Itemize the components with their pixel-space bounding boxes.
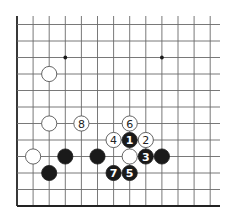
black-stone: [90, 149, 105, 164]
black-stone-move-7: 7: [106, 165, 121, 180]
move-number-label: 4: [110, 134, 117, 147]
white-stone: [42, 116, 57, 131]
black-stone: [42, 165, 57, 180]
white-stone-icon: [122, 149, 137, 164]
black-stone-icon: [90, 149, 105, 164]
black-stone-icon: [58, 149, 73, 164]
black-stone-icon: [154, 149, 169, 164]
white-stone-move-4: 4: [106, 132, 121, 147]
white-stone-move-8: 8: [74, 116, 89, 131]
black-stone-move-5: 5: [122, 165, 137, 180]
star-point-icon: [63, 56, 67, 60]
white-stone: [25, 149, 40, 164]
move-number-label: 7: [110, 167, 118, 180]
white-stone-icon: [42, 66, 57, 81]
move-number-label: 5: [126, 167, 134, 180]
move-number-label: 6: [126, 118, 133, 131]
white-stone-move-2: 2: [138, 132, 153, 147]
star-point-icon: [160, 56, 164, 60]
white-stone-icon: [42, 116, 57, 131]
black-stone-move-1: 1: [122, 132, 137, 147]
move-number-label: 8: [78, 118, 85, 131]
white-stone-move-6: 6: [122, 116, 137, 131]
black-stone-icon: [42, 165, 57, 180]
black-stone: [154, 149, 169, 164]
black-stone: [58, 149, 73, 164]
black-stone-move-3: 3: [138, 149, 153, 164]
go-board: 86412375: [0, 0, 236, 217]
move-number-label: 3: [142, 151, 150, 164]
white-stone: [122, 149, 137, 164]
white-stone-icon: [25, 149, 40, 164]
move-number-label: 1: [126, 134, 134, 147]
move-number-label: 2: [142, 134, 149, 147]
white-stone: [42, 66, 57, 81]
